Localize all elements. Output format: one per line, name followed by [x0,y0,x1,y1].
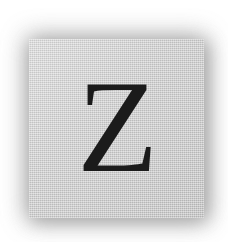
tile-letter-glyph: Z [77,61,158,193]
letter-tile[interactable]: Z [29,39,204,218]
tile-glyph-container: Z [29,39,204,218]
letter-tile-scene: Z [0,0,228,242]
